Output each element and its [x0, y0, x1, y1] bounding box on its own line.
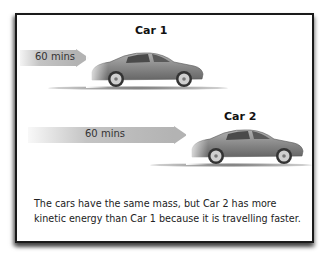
- car2-arrow-label: 60 mins: [85, 128, 125, 139]
- car2-sports-car-icon: [186, 127, 306, 165]
- car1-title: Car 1: [135, 24, 167, 37]
- car1-arrow-label: 60 mins: [35, 51, 75, 62]
- car1-speed-arrow: 60 mins: [20, 50, 90, 66]
- car1-sports-car-icon: [86, 50, 206, 88]
- car2-speed-arrow: 60 mins: [28, 127, 188, 143]
- caption-text: The cars have the same mass, but Car 2 h…: [34, 196, 304, 226]
- car2-title: Car 2: [224, 110, 256, 123]
